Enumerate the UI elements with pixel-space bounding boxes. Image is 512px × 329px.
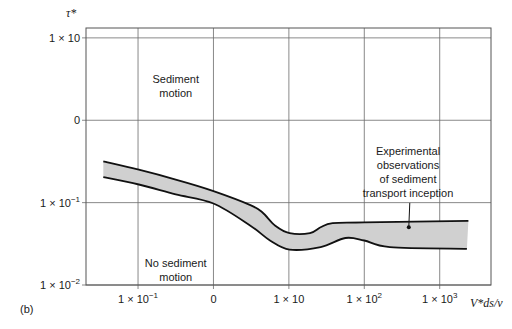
chart: 1 × 10−101 × 101 × 1021 × 103 1 × 1001 ×… (0, 0, 512, 329)
x-tick-label: 1 × 102 (347, 291, 383, 305)
annotation-pointer-dot (407, 225, 411, 229)
x-axis-ticks: 1 × 10−101 × 101 × 1021 × 103 (118, 291, 458, 305)
x-axis-label: V*ds/ν (470, 296, 503, 310)
y-tick-label: 1 × 10 (49, 32, 80, 44)
y-tick-label: 1 × 10−1 (40, 195, 81, 209)
panel-label: (b) (20, 303, 33, 315)
y-axis-label: τ* (66, 6, 76, 20)
y-axis-ticks: 1 × 1001 × 10−11 × 10−2 (40, 32, 81, 291)
x-tick-label: 1 × 103 (422, 291, 458, 305)
x-tick-label: 1 × 10 (273, 293, 304, 305)
y-tick-label: 0 (74, 114, 80, 126)
annotation-sediment-motion: Sedimentmotion (153, 73, 199, 99)
annotation-no-sediment-motion: No sedimentmotion (145, 257, 207, 283)
x-tick-label: 1 × 10−1 (118, 291, 159, 305)
y-tick-label: 1 × 10−2 (40, 277, 81, 291)
x-tick-label: 0 (210, 293, 216, 305)
annotations: SedimentmotionNo sedimentmotionExperimen… (145, 73, 453, 283)
